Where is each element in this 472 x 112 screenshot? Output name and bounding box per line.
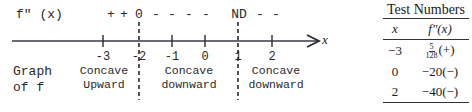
region-label: downward: [161, 78, 216, 92]
region-label: Concave: [161, 64, 216, 78]
table-title: Test Numbers: [381, 2, 471, 18]
cell-x: −3: [381, 43, 409, 59]
fraction-denominator: 128: [426, 52, 438, 60]
cell-x: 0: [381, 64, 409, 80]
tick-label: -2: [132, 50, 146, 64]
region-concave-downward: Concave downward: [161, 64, 216, 92]
cell-value: 5 128 (+): [409, 42, 471, 60]
cell-value: −20(−): [409, 64, 471, 80]
graph-of-f-label: Graph of f: [13, 64, 52, 96]
cell-x: 2: [381, 84, 409, 100]
fraction: 5 128: [426, 43, 438, 60]
table-header-row: x f″(x): [381, 19, 471, 39]
region-concave-downward: Concave downward: [248, 64, 303, 92]
sign-indicator: (+): [439, 42, 455, 57]
column-header-x: x: [381, 21, 409, 37]
region-label: Upward: [80, 78, 128, 92]
tick-label: 2: [268, 50, 275, 64]
graph-label-line: of f: [13, 80, 52, 96]
graph-label-line: Graph: [13, 64, 52, 80]
tick-label: -1: [165, 50, 179, 64]
region-label: downward: [248, 78, 303, 92]
region-label: Concave: [248, 64, 303, 78]
tick-label: -3: [96, 50, 110, 64]
region-label: Concave: [80, 64, 128, 78]
table-row: 0 −20(−): [381, 62, 471, 82]
tick-label: 0: [201, 50, 208, 64]
table-row: −3 5 128 (+): [381, 40, 471, 62]
cell-value: −40(−): [409, 84, 471, 100]
region-concave-upward: Concave Upward: [80, 64, 128, 92]
column-header-fpp: f″(x): [409, 21, 471, 37]
tick-label: 1: [234, 50, 241, 64]
table-row: 2 −40(−): [381, 82, 471, 102]
divider: [383, 102, 469, 103]
test-numbers-table: Test Numbers x f″(x) −3 5 128 (+) 0 −20(…: [381, 2, 471, 103]
axis-variable-label: x: [322, 32, 328, 48]
